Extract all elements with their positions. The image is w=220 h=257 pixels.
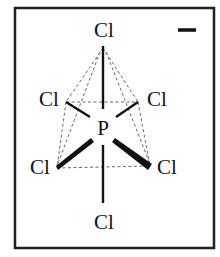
- bond-back-left: [66, 102, 90, 117]
- wedge-bond-front-right: [112, 138, 152, 170]
- atom-cl-front-left: Cl: [30, 155, 50, 179]
- atom-p-central: P: [97, 116, 109, 140]
- atom-cl-axial-top: Cl: [94, 18, 114, 42]
- diagram-frame: [15, 8, 214, 248]
- atom-cl-back-right: Cl: [147, 87, 167, 111]
- molecule-diagram: Cl Cl Cl P Cl Cl Cl −: [0, 0, 220, 257]
- atom-cl-back-left: Cl: [39, 87, 59, 111]
- atom-cl-axial-bottom: Cl: [94, 210, 114, 234]
- atom-cl-front-right: Cl: [157, 155, 177, 179]
- wedge-bond-front-left: [56, 138, 94, 170]
